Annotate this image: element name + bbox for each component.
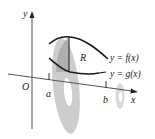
curve-f-label: y = f(x) xyxy=(109,53,139,64)
region-label: R xyxy=(79,52,86,63)
tick-label-b: b xyxy=(103,94,108,105)
y-axis xyxy=(30,11,35,129)
washer-diagram: y x O a b R y = f(x) y = g(x) xyxy=(0,0,155,139)
origin-label: O xyxy=(22,81,29,92)
x-axis-label: x xyxy=(130,94,136,105)
curve-g-label: y = g(x) xyxy=(109,69,141,80)
washer-ghost xyxy=(116,83,125,109)
washer-solid xyxy=(48,37,84,135)
tick-label-a: a xyxy=(46,88,51,99)
x-axis-arrow-icon xyxy=(131,89,139,94)
curve-g-leader xyxy=(99,72,106,73)
y-axis-label: y xyxy=(22,8,28,19)
y-axis-arrow-icon xyxy=(30,11,35,18)
